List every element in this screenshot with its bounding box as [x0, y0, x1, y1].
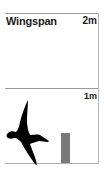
- flying-duck-silhouette-icon: [4, 98, 52, 166]
- wingspan-card: Wingspan 2m 1m: [0, 0, 105, 171]
- right-axis-line: [98, 13, 99, 164]
- scale-label-1m: 1m: [84, 91, 97, 102]
- card-title: Wingspan: [6, 15, 57, 27]
- middle-gridline: [5, 88, 98, 89]
- scale-label-2m: 2m: [83, 15, 97, 26]
- top-gridline: [5, 13, 98, 14]
- wingspan-bar: [61, 133, 70, 163]
